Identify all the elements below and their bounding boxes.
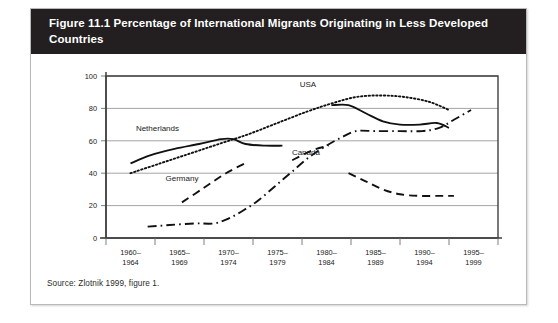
y-axis-label: 80 [89,104,97,113]
x-axis-label: 1994 [416,258,432,267]
x-axis-label: 1979 [269,258,285,267]
y-axis-label: 60 [89,137,97,146]
series-annotation-canada: Canada [292,148,321,157]
chart-plot-area: 0204060801001960–19641965–19691970–19741… [31,54,526,306]
x-axis-label: 1970– [218,248,239,257]
x-axis-label: 1965– [169,248,190,257]
figure-card: Figure 11.1 Percentage of International … [30,8,527,305]
series-line-netherlands [131,139,283,164]
source-note: Source: Zlotnik 1999, figure 1. [47,279,159,288]
series-annotation-germany: Germany [165,174,198,183]
x-axis-label: 1980– [316,248,337,257]
series-line-germany [349,173,454,196]
y-axis-label: 0 [93,234,97,243]
x-axis-label: 1985– [365,248,386,257]
x-axis-label: 1984 [318,258,334,267]
x-axis-label: 1964 [122,258,138,267]
y-axis-label: 100 [85,72,97,81]
x-axis-label: 1990– [414,248,435,257]
series-line-usa [131,95,450,173]
figure-header: Figure 11.1 Percentage of International … [31,9,526,54]
figure-title: Figure 11.1 Percentage of International … [49,16,508,47]
y-axis-label: 20 [89,201,97,210]
x-axis-label: 1974 [220,258,236,267]
y-axis-label: 40 [89,169,97,178]
series-annotation-netherlands: Netherlands [136,124,179,133]
series-line-canada [148,110,471,227]
x-axis-label: 1975– [267,248,288,257]
x-axis-label: 1989 [367,258,383,267]
x-axis-label: 1999 [465,258,481,267]
line-chart: 0204060801001960–19641965–19691970–19741… [31,54,528,306]
x-axis-label: 1969 [171,258,187,267]
x-axis-label: 1995– [463,248,484,257]
series-annotation-usa: USA [300,80,317,89]
x-axis-label: 1960– [120,248,141,257]
